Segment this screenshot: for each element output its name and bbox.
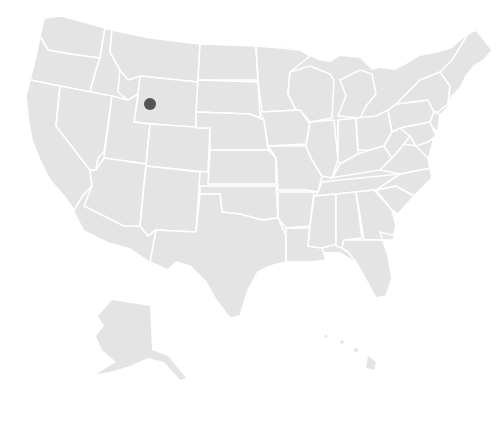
hawaii-island-2[interactable]	[340, 340, 344, 344]
state-alaska[interactable]	[96, 300, 186, 380]
state-kansas[interactable]	[208, 150, 276, 184]
state-north-dakota[interactable]	[198, 44, 258, 80]
hawaii-island-3[interactable]	[354, 348, 358, 352]
alaska[interactable]	[96, 300, 186, 380]
hawaii-island-1[interactable]	[325, 335, 328, 338]
us-map	[0, 0, 504, 425]
state-colorado[interactable]	[146, 124, 210, 172]
markers	[144, 98, 156, 110]
state-iowa[interactable]	[260, 110, 310, 146]
state-wyoming[interactable]	[134, 76, 198, 128]
hawaii[interactable]	[325, 335, 377, 371]
state-montana[interactable]	[110, 30, 200, 82]
state-new-mexico[interactable]	[140, 166, 200, 236]
state-arkansas[interactable]	[278, 192, 314, 228]
lower-48-states	[26, 16, 492, 318]
state-florida[interactable]	[342, 232, 396, 298]
hawaii-big-island[interactable]	[366, 356, 376, 370]
location-marker-dot[interactable]	[144, 98, 156, 110]
